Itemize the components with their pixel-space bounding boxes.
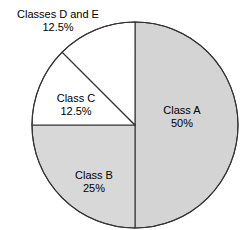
pie-label-classes-d-and-e-value: 12.5% [8, 21, 108, 34]
pie-label-class-a-value: 50% [140, 117, 224, 130]
pie-label-class-b-name: Class B [52, 169, 136, 182]
pie-label-class-c-value: 12.5% [34, 105, 118, 118]
pie-label-classes-d-and-e: Classes D and E 12.5% [8, 8, 108, 34]
pie-label-class-c: Class C 12.5% [34, 92, 118, 118]
pie-label-class-a-name: Class A [140, 104, 224, 117]
pie-label-classes-d-and-e-name: Classes D and E [8, 8, 108, 21]
pie-chart: Class A 50% Class B 25% Class C 12.5% Cl… [0, 0, 251, 230]
pie-label-class-b: Class B 25% [52, 169, 136, 195]
pie-label-class-c-name: Class C [34, 92, 118, 105]
pie-label-class-a: Class A 50% [140, 104, 224, 130]
pie-label-class-b-value: 25% [52, 182, 136, 195]
